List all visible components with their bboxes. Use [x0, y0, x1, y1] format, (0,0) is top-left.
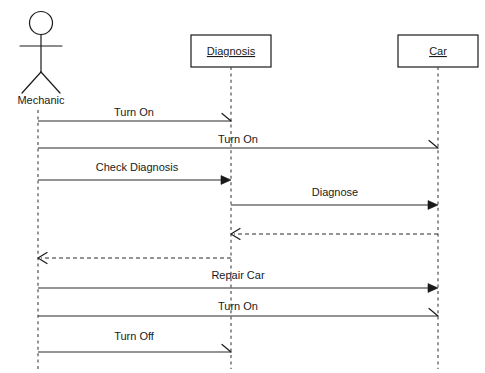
- participant-mechanic[interactable]: Mechanic: [17, 12, 65, 370]
- message-arrowhead-4: [428, 201, 438, 210]
- message-label-8: Turn On: [218, 300, 258, 312]
- message-label-4: Diagnose: [312, 186, 358, 198]
- sequence-diagram-canvas: Mechanic Diagnosis Car Turn On Turn On: [0, 0, 485, 373]
- message-5-return-car-to-diagnosis[interactable]: [231, 229, 438, 240]
- actor-stick-figure-icon: [20, 12, 62, 94]
- message-arrowhead-9: [222, 345, 231, 353]
- message-9-turn-off[interactable]: Turn Off: [38, 330, 231, 352]
- message-arrowhead-1: [222, 114, 231, 122]
- message-8-turn-on[interactable]: Turn On: [38, 300, 438, 316]
- message-label-9: Turn Off: [114, 330, 155, 342]
- participant-car[interactable]: Car: [398, 35, 478, 369]
- message-arrowhead-3: [221, 176, 231, 185]
- message-label-7: Repair Car: [211, 269, 265, 281]
- participant-diagnosis[interactable]: Diagnosis: [191, 35, 271, 369]
- participant-label-car: Car: [429, 45, 447, 57]
- message-label-2: Turn On: [218, 133, 258, 145]
- message-7-repair-car[interactable]: Repair Car: [38, 269, 438, 292]
- message-arrowhead-8: [429, 309, 438, 317]
- message-3-check-diagnosis[interactable]: Check Diagnosis: [38, 161, 231, 184]
- diagram-surface: Mechanic Diagnosis Car Turn On Turn On: [0, 0, 485, 373]
- message-arrowhead-7: [428, 284, 438, 293]
- message-2-turn-on[interactable]: Turn On: [38, 133, 438, 148]
- participant-label-diagnosis: Diagnosis: [207, 45, 256, 57]
- message-label-1: Turn On: [114, 106, 154, 118]
- message-arrowhead-2: [429, 141, 438, 149]
- message-label-3: Check Diagnosis: [96, 161, 179, 173]
- message-1-turn-on[interactable]: Turn On: [38, 106, 231, 121]
- message-6-return-diagnosis-to-mechanic[interactable]: [38, 253, 231, 264]
- participant-label-mechanic: Mechanic: [17, 94, 65, 106]
- message-4-diagnose[interactable]: Diagnose: [231, 186, 438, 209]
